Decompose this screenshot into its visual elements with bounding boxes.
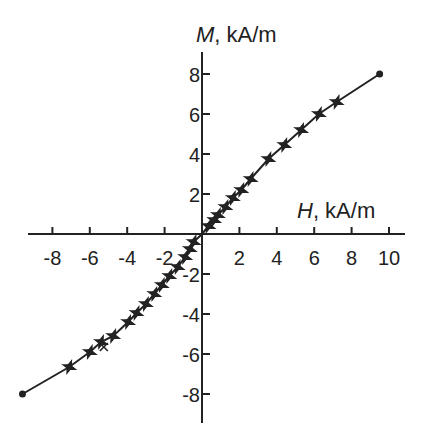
y-axis-unit: , kA/m xyxy=(214,22,276,47)
x-tick-label: -2 xyxy=(156,247,174,269)
axes xyxy=(28,52,405,423)
x-axis-variable: H xyxy=(297,198,313,223)
endpoint-dot xyxy=(376,71,383,78)
x-tick-label: -8 xyxy=(44,247,62,269)
y-tick-label: -6 xyxy=(182,344,200,366)
y-tick-label: 2 xyxy=(189,184,200,206)
y-tick-label: -4 xyxy=(182,304,200,326)
y-tick-label: -8 xyxy=(182,384,200,406)
x-tick-label: 10 xyxy=(378,247,400,269)
magnetization-chart: -8-6-4-2246810 -8-6-4-22468 M, kA/m H, k… xyxy=(0,0,430,433)
y-axis-title: M, kA/m xyxy=(196,22,277,47)
y-axis-variable: M xyxy=(196,22,215,47)
x-tick-label: 6 xyxy=(309,247,320,269)
star-marker xyxy=(62,359,77,374)
x-axis-unit: , kA/m xyxy=(313,198,375,223)
x-axis-title: H, kA/m xyxy=(297,198,375,223)
x-tick-label: 8 xyxy=(346,247,357,269)
x-tick-label: -6 xyxy=(81,247,99,269)
y-tick-label: -2 xyxy=(182,264,200,286)
y-tick-label: 4 xyxy=(189,144,200,166)
endpoint-dot xyxy=(19,391,26,398)
x-tick-label: -4 xyxy=(118,247,136,269)
x-tick-label: 2 xyxy=(234,247,245,269)
y-tick-label: 6 xyxy=(189,104,200,126)
y-tick-label: 8 xyxy=(189,64,200,86)
star-marker xyxy=(329,94,344,109)
x-tick-label: 4 xyxy=(271,247,282,269)
